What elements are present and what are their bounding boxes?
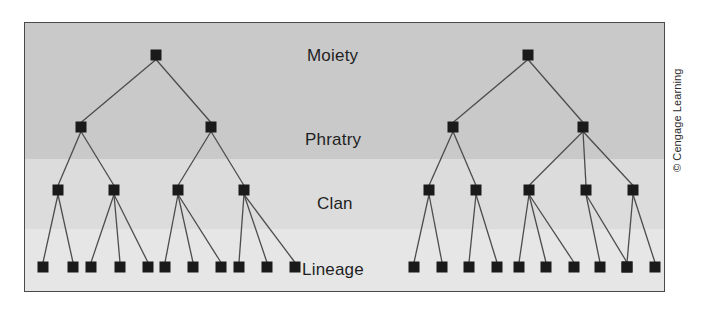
copyright-credit: © Cengage Learning: [671, 69, 683, 172]
edge-clan-to-lineage-1-0-0-0: [414, 195, 429, 263]
edge-clan-to-lineage-1-0-1-1: [476, 195, 497, 263]
tree-nodes: [38, 50, 661, 273]
row-label-clan: Clan: [317, 194, 353, 214]
node-clan-0-1-0: [173, 185, 184, 196]
edge-clan-to-lineage-0-1-1-1: [244, 195, 267, 263]
node-lineage-0-0-0-1: [68, 262, 79, 273]
node-lineage-1-1-2-1: [650, 262, 661, 273]
edge-clan-to-lineage-1-1-0-0: [519, 195, 529, 263]
edge-clan-to-lineage-0-0-1-0: [91, 195, 114, 263]
edge-clan-to-lineage-0-1-0-1: [178, 195, 193, 263]
node-lineage-1-0-0-0: [409, 262, 420, 273]
edge-phratry-to-clan-0-1-1: [211, 132, 244, 186]
node-lineage-1-1-2-0: [622, 262, 633, 273]
node-lineage-1-1-0-1: [541, 262, 552, 273]
node-moiety-0: [151, 50, 162, 61]
edge-clan-to-lineage-1-1-2-0: [627, 195, 633, 263]
node-clan-0-1-1: [239, 185, 250, 196]
node-lineage-1-0-1-1: [492, 262, 503, 273]
edge-phratry-to-clan-1-0-1: [453, 132, 476, 186]
node-phratry-0-1: [206, 122, 217, 133]
node-lineage-1-0-0-1: [437, 262, 448, 273]
edge-phratry-to-clan-0-0-1: [81, 132, 114, 186]
edge-clan-to-lineage-1-1-0-2: [529, 195, 574, 263]
edge-clan-to-lineage-0-1-0-0: [165, 195, 178, 263]
row-label-phratry: Phratry: [305, 130, 361, 150]
node-moiety-1: [523, 50, 534, 61]
edge-clan-to-lineage-1-0-0-1: [429, 195, 442, 263]
node-clan-1-0-1: [471, 185, 482, 196]
edge-clan-to-lineage-0-1-1-2: [244, 195, 295, 263]
node-clan-1-1-2: [628, 185, 639, 196]
node-lineage-1-1-0-2: [569, 262, 580, 273]
node-phratry-1-1: [578, 122, 589, 133]
edge-clan-to-lineage-1-0-1-0: [469, 195, 476, 263]
node-lineage-0-1-0-2: [216, 262, 227, 273]
figure-root: Moiety Phratry Clan Lineage © Cengage Le…: [0, 0, 708, 312]
tree-edges: [43, 60, 655, 263]
edge-moiety-to-phratry-0-0: [81, 60, 156, 123]
node-lineage-0-1-0-1: [188, 262, 199, 273]
node-clan-0-0-1: [109, 185, 120, 196]
node-lineage-0-1-1-2: [290, 262, 301, 273]
node-lineage-1-0-1-0: [464, 262, 475, 273]
edge-clan-to-lineage-0-0-0-1: [58, 195, 73, 263]
edge-clan-to-lineage-1-1-1-1: [586, 195, 627, 263]
node-lineage-1-1-0-0: [514, 262, 525, 273]
node-lineage-0-1-1-1: [262, 262, 273, 273]
node-lineage-0-0-1-1: [115, 262, 126, 273]
node-lineage-0-0-0-0: [38, 262, 49, 273]
edge-phratry-to-clan-1-1-1: [583, 132, 586, 186]
node-lineage-0-0-1-0: [86, 262, 97, 273]
node-clan-0-0-0: [53, 185, 64, 196]
row-label-moiety: Moiety: [307, 46, 358, 66]
edge-clan-to-lineage-0-0-0-0: [43, 195, 58, 263]
diagram-plate: Moiety Phratry Clan Lineage: [24, 22, 665, 292]
edge-moiety-to-phratry-1-1: [528, 60, 583, 123]
row-label-lineage: Lineage: [302, 260, 364, 280]
edge-clan-to-lineage-1-1-2-1: [633, 195, 655, 263]
edge-clan-to-lineage-1-1-1-0: [586, 195, 600, 263]
node-lineage-1-1-1-0: [595, 262, 606, 273]
edge-phratry-to-clan-1-1-2: [583, 132, 633, 186]
node-phratry-1-0: [448, 122, 459, 133]
edge-phratry-to-clan-0-1-0: [178, 132, 211, 186]
node-clan-1-1-1: [581, 185, 592, 196]
node-lineage-0-0-1-2: [143, 262, 154, 273]
edge-moiety-to-phratry-0-1: [156, 60, 211, 123]
node-phratry-0-0: [76, 122, 87, 133]
edge-clan-to-lineage-1-1-0-1: [529, 195, 546, 263]
node-lineage-0-1-0-0: [160, 262, 171, 273]
node-lineage-0-1-1-0: [234, 262, 245, 273]
edge-clan-to-lineage-0-1-0-2: [178, 195, 221, 263]
edge-phratry-to-clan-1-1-0: [529, 132, 583, 186]
edge-phratry-to-clan-0-0-0: [58, 132, 81, 186]
edge-moiety-to-phratry-1-0: [453, 60, 528, 123]
edge-phratry-to-clan-1-0-0: [429, 132, 453, 186]
node-clan-1-1-0: [524, 185, 535, 196]
node-clan-1-0-0: [424, 185, 435, 196]
edge-clan-to-lineage-0-1-1-0: [239, 195, 244, 263]
